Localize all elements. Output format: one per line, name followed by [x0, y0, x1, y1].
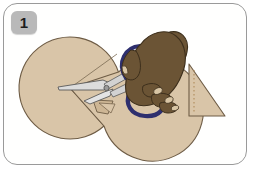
craft-illustration-artwork — [0, 0, 253, 170]
result-triangle — [189, 64, 225, 116]
illustration-stage: 1 — [0, 0, 253, 170]
step-number-label: 1 — [20, 15, 28, 30]
step-number-badge: 1 — [11, 11, 37, 34]
scissors-pivot-screw — [104, 85, 109, 90]
